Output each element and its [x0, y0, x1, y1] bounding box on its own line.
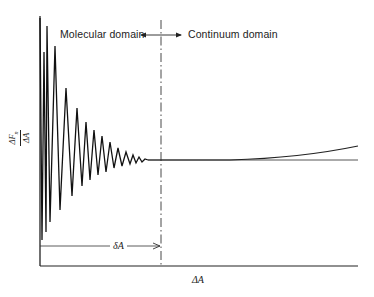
x-axis-label: ΔA [192, 274, 204, 285]
molecular-oscillation-curve [40, 18, 148, 240]
delta-a-label: δA [110, 240, 127, 251]
continuum-curve [148, 146, 358, 160]
diagram-canvas [0, 0, 374, 297]
diagram-figure: Molecular domain Continuum domain ΔFn ΔA… [0, 0, 374, 297]
molecular-domain-label: Molecular domain [60, 28, 144, 40]
y-axis-label: ΔFn ΔA [8, 118, 48, 158]
delta-a-dimension-arrow [40, 243, 160, 249]
continuum-domain-label: Continuum domain [188, 28, 278, 40]
y-axis-label-numerator: ΔFn [8, 130, 21, 145]
y-axis-label-denominator: ΔA [21, 133, 31, 143]
